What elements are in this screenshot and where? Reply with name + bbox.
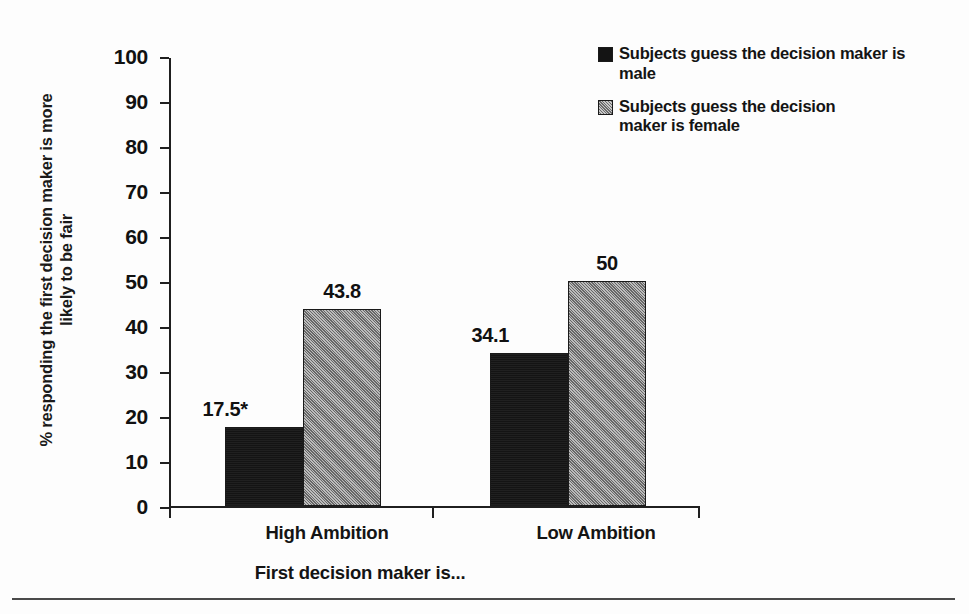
- y-axis-tick-label: 70: [125, 180, 148, 204]
- bar-high-ambition-female: 43.8: [303, 309, 381, 506]
- category-label-low-ambition: Low Ambition: [536, 522, 655, 544]
- x-axis-tick-middle: [432, 508, 434, 518]
- y-axis-tick-label: 100: [114, 45, 148, 69]
- y-axis-tick-label: 40: [125, 315, 148, 339]
- y-axis-tick: 70: [160, 192, 169, 194]
- y-axis-tick-label: 10: [125, 450, 148, 474]
- y-axis-tick-label: 50: [125, 270, 148, 294]
- y-axis-tick: 50: [160, 282, 169, 284]
- y-axis-tick: 30: [160, 372, 169, 374]
- y-axis-tick-label: 60: [125, 225, 148, 249]
- bar-value-label: 34.1: [471, 324, 509, 347]
- bar-chart-figure: % responding the first decision maker is…: [0, 0, 969, 614]
- footer-divider: [12, 598, 955, 600]
- y-axis-tick: 60: [160, 237, 169, 239]
- y-axis-tick: 20: [160, 417, 169, 419]
- legend-label-male: Subjects guess the decision maker is mal…: [619, 44, 939, 84]
- legend-label-female: Subjects guess the decision maker is fem…: [619, 97, 879, 137]
- y-axis-tick: 0: [160, 507, 169, 509]
- y-axis-tick-label: 0: [137, 495, 148, 519]
- legend-item-male: Subjects guess the decision maker is mal…: [598, 44, 958, 84]
- gray-square-icon: [598, 100, 613, 115]
- y-axis-title-line-2: likely to be fair: [57, 214, 75, 326]
- x-axis-tick-end: [698, 508, 700, 518]
- y-axis-tick-label: 90: [125, 90, 148, 114]
- y-axis-tick-label: 20: [125, 405, 148, 429]
- y-axis-tick: 80: [160, 147, 169, 149]
- x-axis-line: [169, 506, 700, 508]
- y-axis-tick-label: 30: [125, 360, 148, 384]
- y-axis-tick-label: 80: [125, 135, 148, 159]
- y-axis-line: [169, 58, 171, 508]
- bar-high-ambition-male: 17.5*: [225, 427, 303, 506]
- chart-legend: Subjects guess the decision maker is mal…: [598, 44, 958, 149]
- category-label-high-ambition: High Ambition: [265, 522, 388, 544]
- bar-value-label: 43.8: [323, 280, 361, 303]
- x-axis-title: First decision maker is...: [0, 562, 720, 584]
- black-square-icon: [598, 47, 613, 62]
- y-axis-tick: 10: [160, 462, 169, 464]
- y-axis-tick: 100: [160, 57, 169, 59]
- bar-value-label: 17.5*: [202, 398, 247, 421]
- bar-value-label: 50: [596, 252, 618, 275]
- y-axis-title: % responding the first decision maker is…: [18, 30, 94, 510]
- y-axis-title-line-1: % responding the first decision maker is…: [37, 93, 55, 446]
- bar-low-ambition-male: 34.1: [490, 353, 568, 506]
- y-axis-tick: 90: [160, 102, 169, 104]
- y-axis-tick: 40: [160, 327, 169, 329]
- x-axis-tick-start: [169, 508, 171, 518]
- legend-item-female: Subjects guess the decision maker is fem…: [598, 97, 958, 137]
- bar-low-ambition-female: 50: [568, 281, 646, 506]
